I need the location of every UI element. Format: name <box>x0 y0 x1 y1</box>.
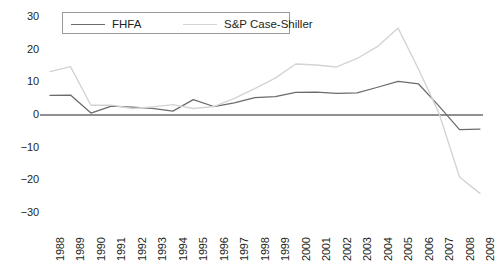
x-axis-tick-label: 1997 <box>239 237 250 261</box>
series-line-s-p-case-shiller <box>50 28 480 193</box>
x-axis-tick-label: 1990 <box>96 237 107 261</box>
x-axis-tick-label: 2008 <box>465 237 476 261</box>
y-axis-tick-label: 0 <box>5 109 39 120</box>
y-axis-tick-label: −10 <box>5 142 39 153</box>
x-axis-tick-label: 1989 <box>75 237 86 261</box>
legend-entry: S&P Case-Shiller <box>183 17 313 31</box>
x-axis-tick-label: 1993 <box>157 237 168 261</box>
x-axis-tick-label: 1995 <box>198 237 209 261</box>
x-axis-tick-label: 2006 <box>424 237 435 261</box>
y-axis-tick-label: −30 <box>5 207 39 218</box>
y-axis-tick-label: 20 <box>5 44 39 55</box>
x-axis-tick-label: 1991 <box>116 237 127 261</box>
x-axis-tick-label: 2003 <box>362 237 373 261</box>
x-axis-tick-label: 2009 <box>485 237 495 261</box>
x-axis-tick-label: 2000 <box>301 237 312 261</box>
x-axis-tick-label: 2005 <box>403 237 414 261</box>
y-axis-tick-label: 10 <box>5 76 39 87</box>
x-axis-tick-label: 1992 <box>137 237 148 261</box>
chart-legend: FHFAS&P Case-Shiller <box>62 12 290 34</box>
x-axis-tick-label: 1999 <box>280 237 291 261</box>
legend-line-swatch-icon <box>183 24 217 25</box>
x-axis-tick-label: 2004 <box>383 237 394 261</box>
legend-line-swatch-icon <box>71 24 105 25</box>
chart-plot-area <box>0 0 495 272</box>
legend-label: FHFA <box>112 18 141 30</box>
chart-container: 3020100−10−20−30 19881989199019911992199… <box>0 0 495 272</box>
x-axis-tick-label: 2007 <box>444 237 455 261</box>
x-axis-tick-label: 2002 <box>342 237 353 261</box>
x-axis-tick-label: 1996 <box>219 237 230 261</box>
y-axis-tick-label: 30 <box>5 11 39 22</box>
chart-series-layer <box>50 28 480 193</box>
x-axis-tick-label: 2001 <box>321 237 332 261</box>
x-axis-tick-label: 1988 <box>55 237 66 261</box>
y-axis-tick-label: −20 <box>5 174 39 185</box>
legend-label: S&P Case-Shiller <box>224 18 313 30</box>
x-axis-tick-label: 1994 <box>178 237 189 261</box>
x-axis-tick-label: 1998 <box>260 237 271 261</box>
legend-entry: FHFA <box>71 17 141 31</box>
